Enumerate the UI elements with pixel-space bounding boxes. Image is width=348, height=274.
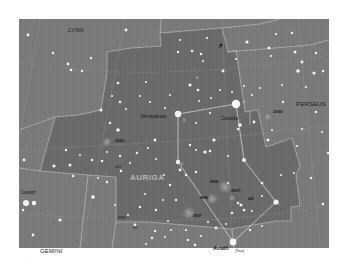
star: [139, 206, 141, 208]
star: [179, 39, 181, 41]
star: [117, 82, 120, 85]
star: [315, 52, 317, 54]
dso-label-1907: 1907: [231, 188, 241, 193]
star: [261, 182, 264, 185]
star: [90, 57, 92, 59]
star: [268, 47, 271, 50]
texture: [19, 19, 329, 248]
star: [280, 174, 282, 176]
star: [222, 70, 225, 73]
star: [65, 149, 67, 151]
star-label-castor: Castor: [21, 189, 36, 195]
bright-star: [232, 100, 240, 108]
star: [301, 128, 303, 130]
star: [197, 89, 200, 92]
star: [81, 70, 83, 72]
ngc1664-disc: [265, 114, 272, 121]
star: [281, 84, 283, 86]
constellation-label-lynx: LYNX: [68, 27, 84, 33]
star: [106, 151, 108, 153]
star: [227, 155, 229, 157]
star: [195, 149, 197, 151]
dso-label-m37: M37: [193, 213, 202, 218]
star: [145, 243, 147, 245]
star: [67, 63, 70, 66]
star: [231, 91, 233, 93]
star: [251, 94, 253, 96]
star: [188, 83, 191, 86]
star: [189, 144, 191, 146]
bright-star: [23, 200, 29, 206]
star: [282, 101, 284, 103]
var-label-ae: AE: [247, 196, 254, 201]
star: [167, 220, 169, 222]
star: [200, 53, 202, 55]
star: [296, 145, 298, 147]
star: [72, 175, 74, 177]
greek-label-iota: ι: [279, 201, 280, 206]
star: [209, 112, 211, 114]
star: [144, 193, 146, 195]
star: [100, 109, 103, 112]
ngc1907-disc: [229, 195, 235, 201]
star: [291, 32, 293, 34]
dso-label-m38: M38: [210, 179, 219, 184]
var-label-uu: UU: [115, 164, 121, 169]
star: [101, 160, 104, 163]
star: [273, 199, 278, 204]
star: [69, 164, 72, 167]
star: [162, 199, 164, 201]
star: [249, 229, 251, 231]
star: [237, 202, 239, 204]
star: [275, 33, 277, 35]
star: [109, 122, 111, 124]
star: [210, 97, 212, 99]
star: [116, 128, 120, 132]
star: [136, 152, 138, 154]
star: [151, 237, 153, 239]
star: [259, 87, 261, 89]
constellation-label-perseus: PERSEUS: [296, 101, 326, 107]
star: [154, 230, 156, 232]
star: [125, 108, 127, 110]
m36-disc: [207, 194, 217, 204]
star: [58, 218, 61, 221]
star: [225, 223, 227, 225]
star: [176, 160, 180, 164]
star: [97, 177, 99, 179]
star: [164, 107, 166, 109]
star: [312, 71, 315, 74]
star: [52, 164, 55, 167]
star: [155, 209, 157, 211]
star: [127, 214, 129, 216]
star: [294, 51, 297, 54]
star-label-capella: Capella: [221, 115, 238, 121]
star: [91, 195, 95, 199]
star: [177, 51, 179, 53]
star: [139, 95, 141, 97]
star: [240, 204, 243, 207]
star: [111, 95, 113, 97]
star: [119, 101, 121, 103]
star: [194, 244, 197, 247]
star: [296, 69, 300, 73]
star: [185, 229, 187, 231]
star: [327, 152, 329, 154]
star: [191, 50, 193, 52]
star: [106, 181, 108, 183]
star: [164, 236, 166, 238]
star: [235, 58, 237, 60]
star: [202, 60, 204, 62]
dso-label-2281: 2281: [114, 138, 125, 143]
star: [120, 170, 122, 172]
var-label-ww: WW: [118, 215, 126, 220]
star: [271, 129, 273, 131]
star-label-menkalinan: Menkalinan: [141, 113, 167, 119]
star: [147, 147, 149, 149]
star-label-alnath: Alnath: [212, 245, 229, 251]
m38-disc: [219, 181, 231, 193]
star: [70, 69, 73, 72]
star: [154, 139, 157, 142]
star: [91, 159, 93, 161]
star: [321, 131, 323, 133]
